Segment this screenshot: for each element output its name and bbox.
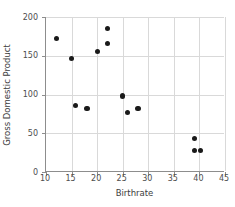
y-axis-tick: [42, 95, 46, 96]
y-axis-tick: [42, 133, 46, 134]
y-axis-tick-label: 200: [0, 13, 38, 22]
y-gridline: [46, 17, 224, 18]
data-point: [125, 110, 130, 115]
x-axis-title: Birthrate: [45, 188, 224, 198]
data-point: [192, 136, 197, 141]
x-gridline: [225, 17, 226, 171]
y-axis-tick-label: 0: [0, 168, 38, 177]
x-axis-tick-label: 35: [161, 174, 185, 184]
data-point: [135, 106, 140, 111]
data-point: [105, 26, 110, 31]
x-axis-tick-label: 30: [135, 174, 159, 184]
data-point: [105, 41, 110, 46]
data-point: [54, 36, 59, 41]
x-axis-tick-label: 40: [186, 174, 210, 184]
scatter-chart: Gross Domestic Product Birthrate 1015202…: [0, 0, 235, 207]
data-point: [95, 49, 100, 54]
y-gridline: [46, 95, 224, 96]
x-axis-tick-label: 20: [84, 174, 108, 184]
data-point: [84, 106, 89, 111]
data-point: [69, 56, 74, 61]
data-point: [198, 148, 203, 153]
y-axis-tick-label: 100: [0, 90, 38, 99]
y-axis-tick: [42, 56, 46, 57]
y-axis-tick-label: 50: [0, 129, 38, 138]
data-point: [120, 93, 125, 98]
x-axis-tick-label: 25: [110, 174, 134, 184]
data-point: [192, 148, 197, 153]
y-gridline: [46, 133, 224, 134]
y-axis-tick: [42, 17, 46, 18]
x-axis-tick-label: 15: [59, 174, 83, 184]
y-axis-tick-label: 150: [0, 51, 38, 60]
data-point: [73, 103, 78, 108]
plot-area: [45, 17, 224, 172]
y-axis-tick: [42, 172, 46, 173]
x-axis-tick-label: 45: [212, 174, 235, 184]
